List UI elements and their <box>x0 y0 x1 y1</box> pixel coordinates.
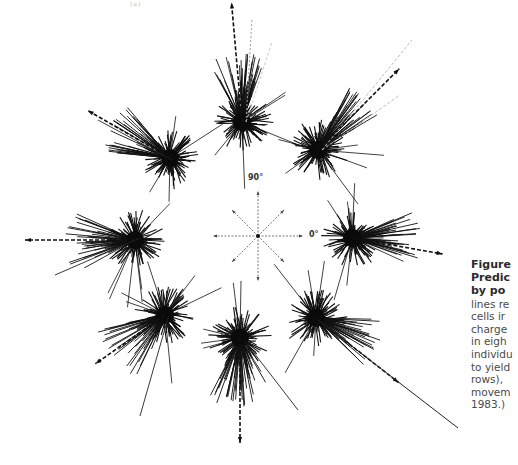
caption-title-line: Figure <box>471 258 518 271</box>
caption-body-line: 1983.) <box>471 398 518 411</box>
compass-rose <box>213 191 303 281</box>
caption-body-line: rows), <box>471 373 518 386</box>
figure-caption: Figure Predic by po lines re cells ir ch… <box>471 258 518 411</box>
caption-title-line: Predic <box>471 271 518 284</box>
starburst-cluster-e <box>321 183 442 300</box>
caption-body-line: individu <box>471 348 518 361</box>
clusters-layer <box>25 2 458 443</box>
starburst-cluster-nw <box>88 108 223 202</box>
starburst-cluster-se <box>274 261 399 383</box>
caption-body-line: cells ir <box>471 310 518 323</box>
figure: (a) 90° 0° <box>0 0 518 465</box>
compass-label-0: 0° <box>309 230 319 239</box>
starburst-cluster-ne <box>279 69 400 204</box>
caption-body-line: to yield <box>471 361 518 374</box>
caption-body-line: in eigh <box>471 335 518 348</box>
caption-body-line: charge <box>471 323 518 336</box>
caption-body-line: movem <box>471 386 518 399</box>
caption-title-line: by po <box>471 284 518 297</box>
compass-label-90: 90° <box>248 173 263 182</box>
starburst-cluster-n <box>214 2 296 188</box>
starburst-cluster-w <box>25 204 170 308</box>
starburst-diagram <box>0 0 518 465</box>
caption-body-line: lines re <box>471 298 518 311</box>
